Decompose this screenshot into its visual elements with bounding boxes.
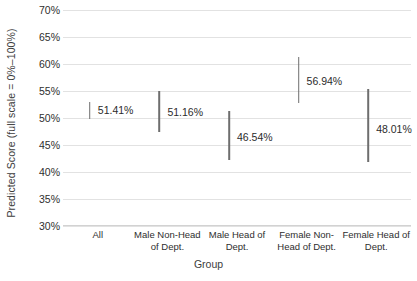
- x-axis-category-label: Male Head ofDept.: [198, 229, 276, 252]
- gridline: [63, 226, 411, 227]
- value-label: 51.16%: [167, 106, 203, 118]
- y-axis-title-text: Predicted Score (full scale = 0%–100%): [5, 28, 17, 217]
- x-axis-category-label: Female Head ofDept.: [337, 229, 415, 252]
- x-axis-category-label: All: [59, 229, 137, 241]
- x-axis-category-label-line: Male Non-Head: [128, 229, 206, 241]
- x-axis-category-label-line: Male Head of: [198, 229, 276, 241]
- y-axis-tick-label: 70%: [20, 4, 60, 16]
- x-axis-category-label-line: Female Head of: [337, 229, 415, 241]
- gridline: [63, 118, 411, 119]
- x-axis-category-label-line: Dept.: [337, 241, 415, 253]
- error-bar: [159, 91, 161, 132]
- y-axis-tick-label: 60%: [20, 58, 60, 70]
- gridline: [63, 199, 411, 200]
- predicted-score-chart: Predicted Score (full scale = 0%–100%) 7…: [0, 0, 417, 281]
- x-axis-category-label-line: All: [59, 229, 137, 241]
- error-bar: [89, 102, 91, 119]
- y-axis-tick-label: 45%: [20, 139, 60, 151]
- x-axis-category-label-line: Female Non-: [268, 229, 346, 241]
- error-bar: [298, 57, 300, 103]
- gridline: [63, 91, 411, 92]
- gridline: [63, 172, 411, 173]
- x-axis-category-label: Male Non-Headof Dept.: [128, 229, 206, 252]
- x-axis-title: Group: [0, 258, 417, 270]
- value-label: 46.54%: [237, 131, 273, 143]
- value-label: 51.41%: [98, 104, 134, 116]
- error-bar: [367, 89, 369, 162]
- value-label: 56.94%: [307, 75, 343, 87]
- gridline: [63, 145, 411, 146]
- value-label: 48.01%: [376, 123, 412, 135]
- y-axis-tick-label: 35%: [20, 193, 60, 205]
- x-axis-category-label: Female Non-Head of Dept.: [268, 229, 346, 252]
- y-axis-title: Predicted Score (full scale = 0%–100%): [0, 0, 22, 246]
- y-axis-tick-label: 40%: [20, 166, 60, 178]
- gridline: [63, 10, 411, 11]
- x-axis-category-label-line: of Dept.: [128, 241, 206, 253]
- gridline: [63, 37, 411, 38]
- x-axis-category-label-line: Dept.: [198, 241, 276, 253]
- plot-area: 51.41%51.16%46.54%56.94%48.01%: [63, 10, 411, 226]
- y-axis-tick-label: 30%: [20, 220, 60, 232]
- y-axis-tick-label: 50%: [20, 112, 60, 124]
- error-bar: [228, 111, 230, 160]
- y-axis-tick-label: 65%: [20, 31, 60, 43]
- x-axis-line: [63, 225, 411, 226]
- gridline: [63, 64, 411, 65]
- y-axis-tick-label: 55%: [20, 85, 60, 97]
- x-axis-category-label-line: Head of Dept.: [268, 241, 346, 253]
